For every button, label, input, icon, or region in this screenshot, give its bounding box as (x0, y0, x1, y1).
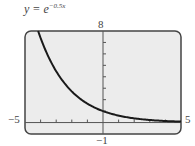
x-max-label: 5 (185, 113, 191, 125)
x-min-label: −5 (8, 113, 20, 125)
y-min-label: −1 (96, 134, 108, 146)
y-max-label: 8 (98, 18, 104, 30)
